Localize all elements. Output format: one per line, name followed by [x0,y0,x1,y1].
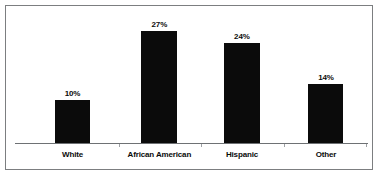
bar-african-american [141,31,177,143]
bar-hispanic [224,43,260,143]
category-label-other: Other [316,150,337,159]
value-label-african-american: 27% [152,20,168,29]
bars-layer [15,10,368,143]
axis-tick [119,144,120,147]
value-label-white: 10% [65,89,81,98]
bar-white [55,100,90,143]
axis-tick [284,144,285,147]
axis-tick [366,144,367,147]
axis-tick [201,144,202,147]
category-label-white: White [62,150,83,159]
category-label-hispanic: Hispanic [226,150,258,159]
value-label-other: 14% [318,73,334,82]
category-axis-line [15,143,368,144]
bar-chart: 10% 27% 24% 14% White African American H… [0,0,384,180]
category-label-african-american: African American [128,150,192,159]
value-label-hispanic: 24% [234,32,250,41]
bar-other [308,84,343,143]
